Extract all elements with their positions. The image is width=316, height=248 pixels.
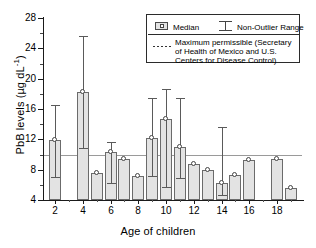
whisker-swatch-icon (219, 21, 233, 31)
whisker-cap-lower-age-10 (162, 187, 171, 188)
median-marker-age-11 (177, 144, 182, 149)
x-tick-6 (111, 200, 112, 204)
y-tick-label-12: 12 (10, 134, 36, 144)
bar-age-18 (271, 159, 283, 200)
y-minor-tick-10 (40, 155, 43, 156)
y-tick-16 (38, 109, 43, 110)
y-minor-tick-14 (40, 124, 43, 125)
x-minor-tick-7 (124, 200, 125, 202)
y-minor-tick-26 (40, 33, 43, 34)
x-minor-tick-3 (69, 200, 70, 202)
x-tick-label-18: 18 (267, 205, 287, 216)
bar-age-13 (202, 170, 214, 200)
whisker-cap-lower-age-9 (148, 176, 157, 177)
whisker-cap-lower-age-11 (176, 178, 185, 179)
y-tick-12 (38, 139, 43, 140)
chart-legend: Median Non-Outlier Range Maximum permiss… (146, 14, 300, 63)
y-axis-tick-labels: 481216202428 (4, 0, 36, 248)
x-minor-tick-17 (263, 200, 264, 202)
whisker-cap-lower-age-6 (107, 183, 116, 184)
legend-label-median: Median (173, 23, 199, 32)
legend-note-line-3: Centers for Disease Control) (175, 56, 276, 66)
whisker-cap-upper-age-11 (176, 98, 185, 99)
median-marker-age-13 (205, 167, 210, 172)
whisker-cap-upper-age-10 (162, 89, 171, 90)
bar-age-12 (188, 164, 200, 200)
median-marker-age-16 (246, 157, 251, 162)
y-tick-20 (38, 79, 43, 80)
x-tick-label-16: 16 (239, 205, 259, 216)
bar-age-15 (229, 175, 241, 200)
x-tick-4 (83, 200, 84, 204)
chart-figure: PbB levels (µg dL-1) Age of children 481… (0, 0, 316, 248)
median-marker-age-4 (80, 89, 85, 94)
x-minor-tick-13 (208, 200, 209, 202)
x-axis-title: Age of children (0, 225, 316, 237)
y-tick-label-8: 8 (10, 165, 36, 175)
x-tick-label-10: 10 (156, 205, 176, 216)
x-tick-10 (166, 200, 167, 204)
x-tick-label-2: 2 (45, 205, 65, 216)
bar-age-5 (91, 173, 103, 200)
y-tick-label-20: 20 (10, 74, 36, 84)
bar-age-7 (118, 159, 130, 200)
whisker-cap-upper-age-2 (51, 105, 60, 106)
median-marker-age-14 (219, 180, 224, 185)
x-tick-18 (277, 200, 278, 204)
x-minor-tick-5 (97, 200, 98, 202)
bar-age-8 (132, 176, 144, 200)
y-tick-label-24: 24 (10, 43, 36, 53)
whisker-cap-lower-age-2 (51, 177, 60, 178)
median-marker-age-15 (232, 172, 237, 177)
x-tick-label-8: 8 (128, 205, 148, 216)
x-minor-tick-15 (235, 200, 236, 202)
y-tick-8 (38, 170, 43, 171)
x-minor-tick-9 (152, 200, 153, 202)
whisker-cap-upper-age-9 (148, 98, 157, 99)
x-tick-8 (138, 200, 139, 204)
y-tick-4 (38, 200, 43, 201)
bar-age-16 (243, 160, 255, 200)
median-marker-age-12 (191, 161, 196, 166)
whisker-line-age-11 (180, 98, 181, 178)
median-marker-age-19 (288, 185, 293, 190)
y-tick-label-28: 28 (10, 13, 36, 23)
median-swatch-icon (155, 22, 168, 30)
y-minor-tick-22 (40, 64, 43, 65)
y-tick-28 (38, 18, 43, 19)
median-marker-age-6 (108, 149, 113, 154)
y-minor-tick-18 (40, 94, 43, 95)
x-tick-label-14: 14 (212, 205, 232, 216)
median-marker-age-2 (52, 137, 57, 142)
x-tick-label-4: 4 (73, 205, 93, 216)
x-minor-tick-11 (180, 200, 181, 202)
y-tick-label-16: 16 (10, 104, 36, 114)
x-minor-tick-19 (291, 200, 292, 202)
reference-line-swatch-icon (153, 46, 171, 47)
y-tick-24 (38, 48, 43, 49)
median-marker-age-10 (163, 116, 168, 121)
y-minor-tick-6 (40, 185, 43, 186)
x-tick-label-12: 12 (184, 205, 204, 216)
whisker-cap-upper-age-6 (107, 142, 116, 143)
legend-divider (148, 34, 300, 35)
whisker-cap-lower-age-14 (218, 195, 227, 196)
x-tick-label-6: 6 (101, 205, 121, 216)
median-marker-age-8 (135, 173, 140, 178)
whisker-cap-lower-age-4 (79, 148, 88, 149)
median-marker-age-18 (274, 156, 279, 161)
whisker-cap-upper-age-4 (79, 36, 88, 37)
median-marker-age-7 (121, 156, 126, 161)
legend-label-non-outlier-range: Non-Outlier Range (237, 23, 304, 32)
x-tick-16 (249, 200, 250, 204)
x-tick-2 (55, 200, 56, 204)
whisker-line-age-10 (166, 89, 167, 187)
x-tick-12 (194, 200, 195, 204)
legend-row-symbols: Median Non-Outlier Range (147, 19, 301, 32)
median-marker-age-5 (94, 170, 99, 175)
whisker-cap-upper-age-14 (218, 127, 227, 128)
x-tick-14 (222, 200, 223, 204)
median-marker-age-9 (149, 135, 154, 140)
y-tick-label-4: 4 (10, 195, 36, 205)
